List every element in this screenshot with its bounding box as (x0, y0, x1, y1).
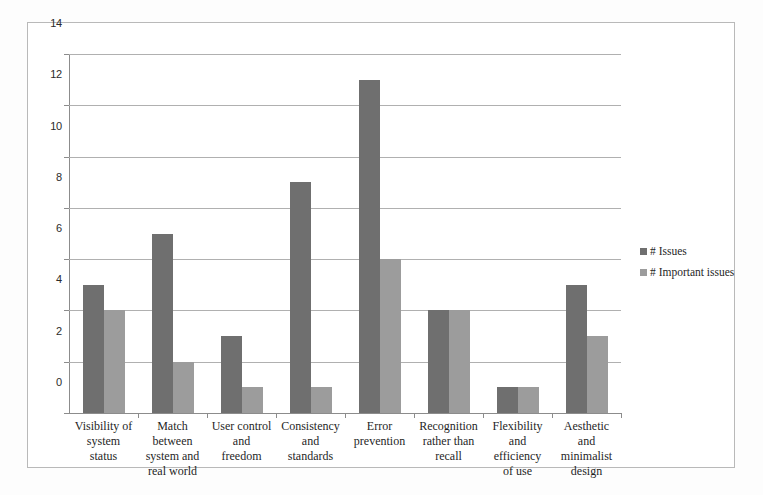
x-tick-2 (276, 413, 277, 418)
bar-2-2 (242, 387, 263, 413)
x-label-4: Errorprevention (345, 419, 414, 449)
y-tick-label-14: 14 (36, 17, 62, 29)
legend-item-1[interactable]: # Important issues (640, 266, 758, 278)
x-label-3: Consistencyandstandards (276, 419, 345, 464)
x-label-line: design (552, 464, 621, 479)
bar-1-1 (152, 234, 173, 414)
x-label-line: Visibility of (69, 419, 138, 434)
bar-1-7 (566, 285, 587, 413)
bar-1-5 (428, 310, 449, 413)
gridline-14 (69, 54, 621, 55)
y-tick-mark-2 (64, 362, 69, 363)
y-tick-label-2: 2 (36, 325, 62, 337)
x-axis-category-labels: Visibility ofsystemstatusMatchbetweensys… (69, 419, 621, 489)
x-tick-5 (483, 413, 484, 418)
x-label-line: rather than (414, 434, 483, 449)
x-label-line: of use (483, 464, 552, 479)
legend-swatch-icon (640, 269, 647, 276)
y-tick-label-6: 6 (36, 222, 62, 234)
x-tick-4 (414, 413, 415, 418)
legend-swatch-icon (640, 248, 647, 255)
bar-2-5 (449, 310, 470, 413)
x-label-line: real world (138, 464, 207, 479)
y-tick-mark-0 (64, 413, 69, 414)
x-label-line: and (276, 434, 345, 449)
x-label-line: and (483, 434, 552, 449)
x-label-line: Aesthetic (552, 419, 621, 434)
bar-1-2 (221, 336, 242, 413)
x-label-2: User controlandfreedom (207, 419, 276, 464)
bar-2-1 (173, 362, 194, 413)
bar-2-3 (311, 387, 332, 413)
plot-area (69, 54, 621, 413)
x-label-line: Match (138, 419, 207, 434)
x-label-line: prevention (345, 434, 414, 449)
x-label-line: Recognition (414, 419, 483, 434)
x-label-0: Visibility ofsystemstatus (69, 419, 138, 464)
bar-2-6 (518, 387, 539, 413)
y-tick-label-4: 4 (36, 273, 62, 285)
bar-2-4 (380, 259, 401, 413)
x-label-line: standards (276, 449, 345, 464)
y-axis-tick-labels: 02468101214 (28, 23, 62, 467)
y-tick-mark-14 (64, 54, 69, 55)
x-label-5: Recognitionrather thanrecall (414, 419, 483, 464)
bar-2-0 (104, 310, 125, 413)
x-label-line: and (552, 434, 621, 449)
x-label-6: Flexibilityandefficiencyof use (483, 419, 552, 479)
gridline-12 (69, 105, 621, 106)
x-label-line: Flexibility (483, 419, 552, 434)
x-label-line: between (138, 434, 207, 449)
x-label-line: User control (207, 419, 276, 434)
legend-label: # Important issues (650, 266, 734, 278)
y-tick-label-8: 8 (36, 171, 62, 183)
x-label-line: and (207, 434, 276, 449)
gridline-8 (69, 208, 621, 209)
x-label-line: minimalist (552, 449, 621, 464)
x-label-line: freedom (207, 449, 276, 464)
x-tick-0 (138, 413, 139, 418)
y-tick-label-12: 12 (36, 68, 62, 80)
x-label-line: Error (345, 419, 414, 434)
y-tick-mark-4 (64, 310, 69, 311)
bar-1-0 (83, 285, 104, 413)
x-label-line: status (69, 449, 138, 464)
x-label-line: system (69, 434, 138, 449)
legend-label: # Issues (650, 245, 687, 257)
x-tick-3 (345, 413, 346, 418)
x-label-line: Consistency (276, 419, 345, 434)
x-tick-6 (552, 413, 553, 418)
y-tick-mark-8 (64, 208, 69, 209)
x-label-line: recall (414, 449, 483, 464)
y-tick-mark-10 (64, 157, 69, 158)
chart-frame: 02468101214 Visibility ofsystemstatusMat… (27, 22, 735, 468)
x-tick-1 (207, 413, 208, 418)
x-label-line: efficiency (483, 449, 552, 464)
y-tick-mark-6 (64, 259, 69, 260)
bar-1-6 (497, 387, 518, 413)
x-label-7: Aestheticandminimalistdesign (552, 419, 621, 479)
y-tick-label-0: 0 (36, 376, 62, 388)
x-label-line: system and (138, 449, 207, 464)
legend-item-0[interactable]: # Issues (640, 245, 758, 257)
bar-1-3 (290, 182, 311, 413)
bar-2-7 (587, 336, 608, 413)
bar-1-4 (359, 80, 380, 413)
gridline-10 (69, 157, 621, 158)
chart-legend: # Issues# Important issues (640, 245, 758, 287)
x-label-1: Matchbetweensystem andreal world (138, 419, 207, 479)
y-tick-label-10: 10 (36, 120, 62, 132)
y-tick-mark-12 (64, 105, 69, 106)
x-tick-7 (621, 413, 622, 418)
